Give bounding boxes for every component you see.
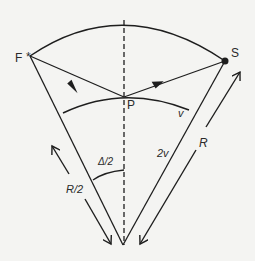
ray-f-to-p (30, 56, 124, 97)
label-p: P (127, 98, 135, 112)
ray-p-to-s (124, 61, 225, 97)
upper-arc (30, 25, 225, 61)
label-s: S (231, 46, 239, 60)
radius-right (123, 61, 225, 245)
diagram-svg: * F S P v 2v R R/2 Δ/2 (0, 0, 255, 261)
angle-arc (93, 170, 124, 180)
label-r-half: R/2 (66, 183, 83, 195)
f-star-icon: * (26, 50, 31, 64)
label-2v: 2v (156, 147, 170, 159)
diagram-canvas: * F S P v 2v R R/2 Δ/2 (0, 0, 255, 261)
arrowhead-f-p-icon (67, 80, 79, 94)
radius-left (30, 56, 123, 245)
arrowhead-p-s-icon (152, 80, 165, 89)
label-f: F (15, 51, 22, 65)
s-dot-icon (222, 58, 229, 65)
r-half-arrow-top (52, 146, 69, 174)
r-half-arrow-bottom (85, 199, 111, 244)
label-r: R (199, 136, 208, 150)
r-arrow-top (206, 72, 240, 127)
label-delta-half: Δ/2 (97, 156, 113, 167)
lower-arc (63, 98, 189, 113)
